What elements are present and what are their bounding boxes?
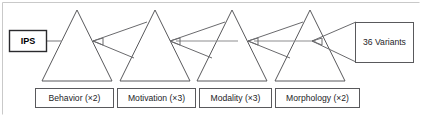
stage-label-morphology: Morphology (×2)	[286, 93, 349, 103]
stage-label-modality: Modality (×3)	[211, 93, 261, 103]
ips-label: IPS	[21, 36, 36, 46]
diagram-canvas: IPS 36 Variants Behavior (×2) Motivation…	[0, 0, 422, 117]
variants-label: 36 Variants	[363, 37, 406, 47]
stage-label-behavior: Behavior (×2)	[49, 93, 101, 103]
triangle-modality	[197, 10, 267, 81]
triangle-morphology	[275, 10, 345, 81]
triangle-behavior	[42, 10, 112, 81]
stage-label-motivation: Motivation (×3)	[128, 93, 185, 103]
triangle-motivation	[120, 10, 190, 81]
diagram-graphics: IPS 36 Variants Behavior (×2) Motivation…	[0, 0, 422, 117]
